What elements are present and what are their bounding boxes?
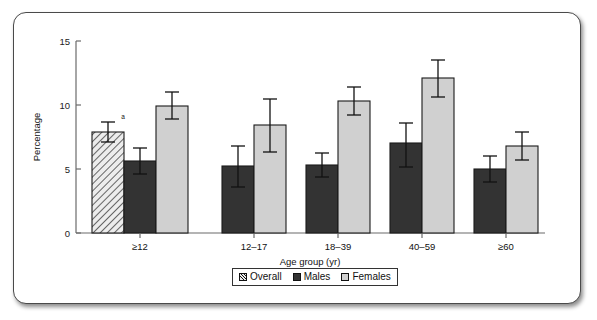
bar-group-40-59: 40–59 [390, 60, 454, 252]
bar-group-18-39: 18–39 [306, 87, 370, 252]
bar-females-ge12 [156, 106, 188, 233]
y-tick-label-5: 5 [65, 164, 70, 175]
x-tick-label-ge60: ≥60 [498, 241, 514, 252]
bar-group-ge12: a ≥12 [92, 92, 188, 252]
legend-label-overall: Overall [250, 270, 282, 283]
y-tick-label-15: 15 [59, 36, 70, 47]
x-tick-label-ge12: ≥12 [132, 241, 148, 252]
light-gray-swatch [341, 273, 349, 281]
x-tick-label-12-17: 12–17 [241, 241, 267, 252]
annotation-superscript-a: a [121, 113, 125, 120]
x-tick-label-18-39: 18–39 [325, 241, 351, 252]
x-tick-label-40-59: 40–59 [409, 241, 435, 252]
bar-overall-ge12 [92, 132, 124, 233]
chart-legend: Overall Males Females [232, 268, 398, 286]
legend-item-overall: Overall [239, 270, 282, 283]
bar-group-12-17: 12–17 [222, 99, 286, 252]
legend-item-males: Males [293, 270, 331, 283]
legend-label-males: Males [304, 270, 331, 283]
legend-item-females: Females [341, 270, 390, 283]
y-axis-title: Percentage [31, 113, 42, 162]
dark-gray-swatch [293, 273, 301, 281]
y-tick-group: 15 10 5 0 [59, 36, 81, 239]
y-tick-label-0: 0 [65, 228, 70, 239]
hatched-swatch [239, 273, 247, 281]
legend-label-females: Females [352, 270, 390, 283]
y-tick-label-10: 10 [59, 100, 70, 111]
bar-females-18-39 [338, 101, 370, 233]
bar-group-ge60: ≥60 [474, 132, 538, 252]
x-axis-title: Age group (yr) [280, 256, 341, 267]
bar-females-40-59 [422, 78, 454, 233]
